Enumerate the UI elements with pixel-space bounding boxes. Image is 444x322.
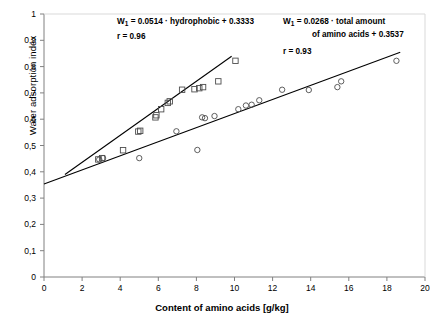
- eq1-variable: W: [117, 17, 125, 26]
- eq2-correlation: r = 0.93: [283, 41, 404, 59]
- total-amino-acids-fit-line: [44, 52, 400, 184]
- y-tick-label: 0,4: [24, 167, 36, 177]
- hydrophobic-fit-line: [65, 56, 232, 174]
- x-tick-label: 12: [268, 283, 278, 293]
- square-marker: [233, 58, 238, 63]
- circle-marker: [257, 98, 262, 103]
- y-tick-label: 0,2: [24, 219, 36, 229]
- hydrophobic-equation-annotation: W1 = 0.0514 · hydrophobic + 0.3333 r = 0…: [117, 16, 254, 43]
- square-data-points: [96, 58, 239, 162]
- x-axis-label: Content of amino acids [g/kg]: [0, 302, 444, 313]
- regression-lines: [44, 52, 400, 184]
- circle-marker: [394, 58, 399, 63]
- x-tick-label: 14: [306, 283, 316, 293]
- y-axis-label: Water adsorption index: [27, 6, 38, 166]
- total-amino-acids-equation-annotation: W1 = 0.0268 · total amount of amino acid…: [283, 16, 404, 59]
- x-tick-label: 6: [156, 283, 161, 293]
- square-marker: [216, 79, 221, 84]
- eq2-variable: W: [283, 17, 291, 26]
- x-tick-label: 20: [420, 283, 430, 293]
- circle-marker: [137, 155, 142, 160]
- circle-marker: [236, 107, 241, 112]
- y-tick-label: 0,1: [24, 246, 36, 256]
- eq1-subscript: 1: [125, 20, 129, 27]
- circle-marker: [174, 129, 179, 134]
- circle-marker: [335, 84, 340, 89]
- x-tick-label: 18: [382, 283, 392, 293]
- eq2-subscript: 1: [291, 20, 295, 27]
- circle-marker: [212, 113, 217, 118]
- eq2-expression-continued: of amino acids + 0.3537: [283, 29, 404, 42]
- circle-marker: [279, 87, 284, 92]
- y-tick-label: 0,3: [24, 193, 36, 203]
- x-axis-ticks: 02468101214161820: [42, 277, 430, 293]
- x-tick-label: 8: [194, 283, 199, 293]
- circle-marker: [195, 147, 200, 152]
- x-tick-label: 0: [42, 283, 47, 293]
- chart-figure: 00,10,20,30,40,50,60,70,80,91 0246810121…: [0, 0, 444, 322]
- y-tick-label: 0: [31, 272, 36, 282]
- circle-marker: [338, 79, 343, 84]
- x-tick-label: 16: [344, 283, 354, 293]
- eq1-correlation: r = 0.96: [117, 29, 254, 44]
- x-tick-label: 10: [230, 283, 240, 293]
- square-marker: [120, 148, 125, 153]
- circle-data-points: [97, 58, 400, 162]
- circle-marker: [306, 87, 311, 92]
- eq1-expression: = 0.0514 · hydrophobic + 0.3333: [128, 17, 254, 26]
- x-tick-label: 4: [118, 283, 123, 293]
- eq2-expression: = 0.0268 · total amount: [294, 17, 385, 26]
- x-tick-label: 2: [80, 283, 85, 293]
- circle-marker: [243, 103, 248, 108]
